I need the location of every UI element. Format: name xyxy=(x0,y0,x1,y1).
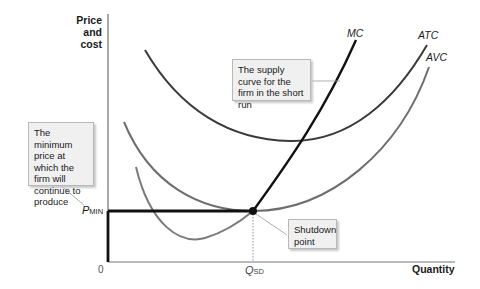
x-axis-title: Quantity xyxy=(412,263,455,275)
mc-label: MC xyxy=(347,27,363,39)
avc-label: AVC xyxy=(426,51,447,63)
y-title-line-3: cost xyxy=(62,38,102,50)
shutdown-point-callout: Shutdown point xyxy=(288,219,337,249)
qsd-label: QSD xyxy=(245,264,264,276)
shutdown-point-marker xyxy=(249,207,257,215)
atc-label: ATC xyxy=(418,29,438,41)
qsd-sub: SD xyxy=(254,267,264,276)
pmin-sub: MIN xyxy=(89,207,103,216)
pmin-label: PMIN xyxy=(82,204,103,216)
mc-curve-lower xyxy=(136,167,253,239)
qsd-main: Q xyxy=(245,264,254,276)
y-axis-title: Price and cost xyxy=(62,14,102,50)
y-title-line-1: Price xyxy=(62,14,102,26)
y-title-line-2: and xyxy=(62,26,102,38)
origin-label: 0 xyxy=(98,264,104,275)
supply-curve-callout: The supply curve for the firm in the sho… xyxy=(232,59,311,101)
shutdown-callout-leader xyxy=(256,214,287,235)
min-price-callout: The minimum price at which the firm will… xyxy=(28,122,94,186)
